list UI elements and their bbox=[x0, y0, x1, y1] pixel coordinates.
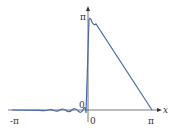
tick-label-zero-x: 0 bbox=[90, 116, 96, 126]
tick-label-zero-y: 0 bbox=[79, 100, 85, 110]
x-axis-label: x bbox=[163, 105, 168, 115]
tick-label-pi-x: π bbox=[148, 116, 154, 126]
partial-sum-curve bbox=[12, 18, 152, 113]
tick-label-pi-y: π bbox=[80, 12, 86, 22]
tick-label-neg-pi: -π bbox=[10, 116, 19, 126]
fourier-graph: -π 0 π π 0 x bbox=[0, 0, 175, 134]
x-axis-arrow-icon bbox=[157, 108, 162, 112]
y-axis-arrow-icon bbox=[86, 6, 90, 11]
